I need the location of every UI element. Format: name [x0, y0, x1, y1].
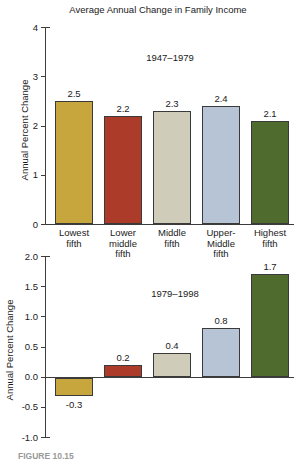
y-tick-label: -0.5: [0, 401, 38, 412]
y-tick-mark: [41, 377, 45, 378]
period-label: 1979–1998: [125, 288, 225, 299]
bar-value-label: 0.8: [201, 315, 241, 326]
y-tick-label: 0.5: [0, 341, 38, 352]
bar: [251, 274, 289, 377]
bar-value-label: -0.3: [54, 399, 94, 410]
bar: [55, 378, 93, 396]
y-tick-mark: [41, 286, 45, 287]
y-tick-mark: [41, 407, 45, 408]
bar: [153, 353, 191, 377]
bar-value-label: 1.7: [250, 261, 290, 272]
y-tick-label: -1.0: [0, 432, 38, 443]
y-tick-label: 1.0: [0, 311, 38, 322]
bar: [202, 328, 240, 376]
bar: [104, 365, 142, 377]
y-axis-line: [45, 256, 46, 437]
bar-value-label: 0.2: [103, 352, 143, 363]
caption-fragment: FIGURE 10.15: [18, 451, 306, 461]
y-tick-label: 2.0: [0, 251, 38, 262]
y-tick-mark: [41, 437, 45, 438]
bar-value-label: 0.4: [152, 340, 192, 351]
y-tick-mark: [41, 256, 45, 257]
y-tick-label: 0.0: [0, 371, 38, 382]
y-tick-mark: [41, 316, 45, 317]
y-tick-label: 1.5: [0, 281, 38, 292]
axis-bottom-cap: [45, 437, 50, 438]
axis-top-cap: [45, 256, 50, 257]
y-tick-mark: [41, 347, 45, 348]
